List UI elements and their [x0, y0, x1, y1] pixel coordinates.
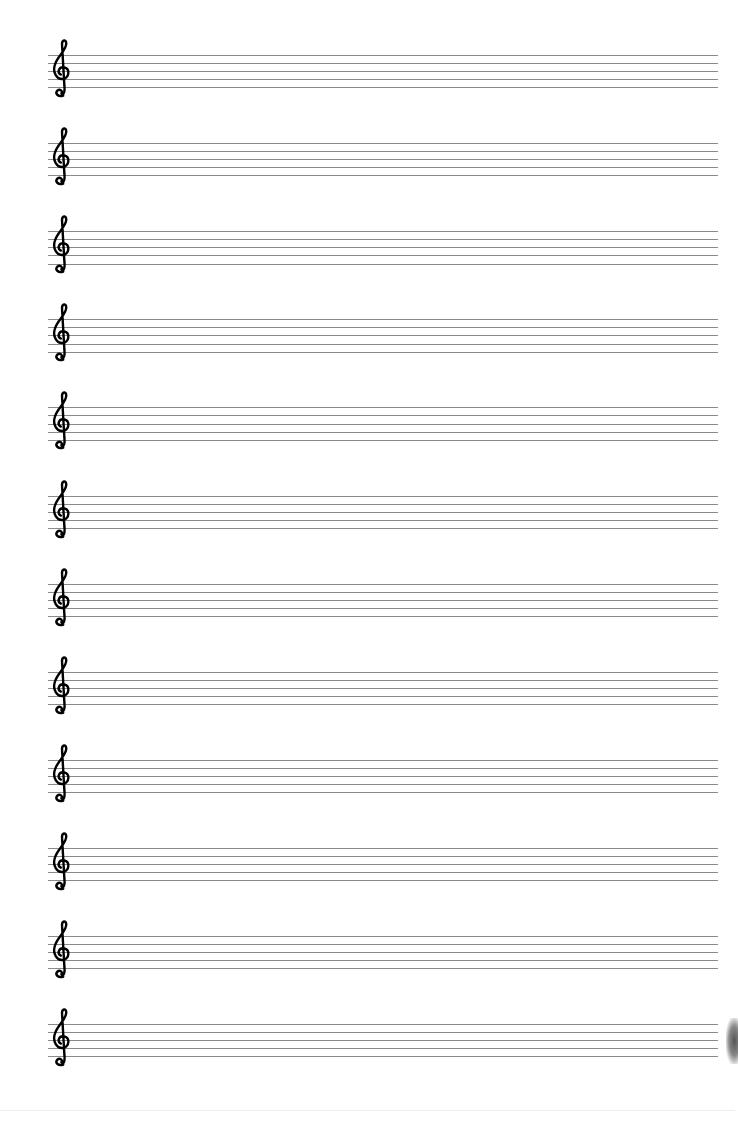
staff: [48, 848, 718, 881]
staff-line: [48, 407, 718, 408]
staff-line: [48, 424, 718, 425]
staff: [48, 143, 718, 176]
staff: [48, 1024, 718, 1057]
staff-line: [48, 688, 718, 689]
treble-clef-icon: [50, 33, 74, 103]
staff-line: [48, 680, 718, 681]
staff-line: [48, 55, 718, 56]
staff-line: [48, 672, 718, 673]
treble-clef-icon: [50, 1002, 74, 1072]
staff-line: [48, 319, 718, 320]
staff-line: [48, 776, 718, 777]
staff-line: [48, 864, 718, 865]
staff: [48, 407, 718, 440]
staff-line: [48, 784, 718, 785]
staff: [48, 496, 718, 529]
staff-line: [48, 496, 718, 497]
staff-line: [48, 143, 718, 144]
treble-clef-icon: [50, 562, 74, 632]
staff-line: [48, 696, 718, 697]
staff: [48, 584, 718, 617]
staff-line: [48, 255, 718, 256]
staff-line: [48, 1040, 718, 1041]
staff-line: [48, 1024, 718, 1025]
staff-line: [48, 1048, 718, 1049]
staff-line: [48, 616, 718, 617]
staff-line: [48, 440, 718, 441]
staff-line: [48, 344, 718, 345]
staff-line: [48, 352, 718, 353]
staff-line: [48, 87, 718, 88]
staff: [48, 672, 718, 705]
staff-line: [48, 63, 718, 64]
staff-line: [48, 415, 718, 416]
staff-line: [48, 335, 718, 336]
staff: [48, 760, 718, 793]
treble-clef-icon: [50, 826, 74, 896]
treble-clef-icon: [50, 385, 74, 455]
staff-line: [48, 608, 718, 609]
staff-line: [48, 792, 718, 793]
treble-clef-icon: [50, 121, 74, 191]
staff-line: [48, 175, 718, 176]
staff-line: [48, 71, 718, 72]
staff-line: [48, 247, 718, 248]
staff-line: [48, 856, 718, 857]
staff-line: [48, 968, 718, 969]
staff-line: [48, 944, 718, 945]
treble-clef-icon: [50, 297, 74, 367]
staff-line: [48, 880, 718, 881]
staff-line: [48, 600, 718, 601]
staff: [48, 319, 718, 352]
treble-clef-icon: [50, 474, 74, 544]
staff-line: [48, 512, 718, 513]
treble-clef-icon: [50, 209, 74, 279]
staff-line: [48, 952, 718, 953]
treble-clef-icon: [50, 650, 74, 720]
staff-line: [48, 848, 718, 849]
staff-line: [48, 528, 718, 529]
staff: [48, 231, 718, 264]
staff-line: [48, 79, 718, 80]
staff-line: [48, 520, 718, 521]
staff-line: [48, 960, 718, 961]
staff-line: [48, 432, 718, 433]
staff-line: [48, 159, 718, 160]
staff-line: [48, 704, 718, 705]
staff: [48, 936, 718, 969]
staff-line: [48, 1032, 718, 1033]
treble-clef-icon: [50, 738, 74, 808]
staff-line: [48, 327, 718, 328]
staff-line: [48, 936, 718, 937]
staff-line: [48, 151, 718, 152]
page-bottom-edge: [0, 1110, 735, 1111]
staff-line: [48, 872, 718, 873]
staff-line: [48, 1056, 718, 1057]
treble-clef-icon: [50, 914, 74, 984]
staff-line: [48, 592, 718, 593]
scan-edge-artifact: [726, 1018, 738, 1064]
staff-line: [48, 768, 718, 769]
staff-line: [48, 264, 718, 265]
staff-line: [48, 504, 718, 505]
staff-line: [48, 760, 718, 761]
staff-line: [48, 584, 718, 585]
staff: [48, 55, 718, 88]
staff-line: [48, 231, 718, 232]
staff-line: [48, 167, 718, 168]
staff-line: [48, 239, 718, 240]
